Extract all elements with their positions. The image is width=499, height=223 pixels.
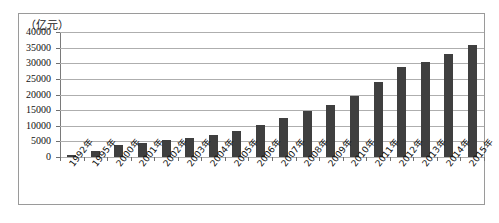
gridline bbox=[60, 48, 484, 49]
x-axis-tick-mark bbox=[296, 157, 297, 161]
x-axis-tick-mark bbox=[84, 157, 85, 161]
y-axis-tick-mark bbox=[56, 79, 60, 80]
x-axis-tick-mark bbox=[390, 157, 391, 161]
x-axis-tick-mark bbox=[131, 157, 132, 161]
y-axis-tick-mark bbox=[56, 95, 60, 96]
y-axis-tick-mark bbox=[56, 32, 60, 33]
x-axis-tick-mark bbox=[343, 157, 344, 161]
y-axis-tick-label: 25000 bbox=[0, 74, 51, 84]
chart-figure: （亿元） 40000350003000025000200001500010000… bbox=[0, 0, 499, 223]
y-axis-tick-label: 20000 bbox=[0, 90, 51, 100]
plot-area bbox=[60, 32, 484, 157]
y-axis-tick-mark bbox=[56, 48, 60, 49]
y-axis-tick-label: 30000 bbox=[0, 58, 51, 68]
gridline bbox=[60, 32, 484, 33]
y-axis-tick-mark bbox=[56, 63, 60, 64]
y-axis-tick-label: 15000 bbox=[0, 105, 51, 115]
bar bbox=[468, 45, 477, 158]
x-axis-tick-mark bbox=[366, 157, 367, 161]
x-axis-tick-mark bbox=[225, 157, 226, 161]
x-axis-tick-mark bbox=[319, 157, 320, 161]
x-axis-tick-mark bbox=[437, 157, 438, 161]
x-axis-tick-mark bbox=[272, 157, 273, 161]
x-axis-tick-mark bbox=[484, 157, 485, 161]
y-axis-tick-mark bbox=[56, 126, 60, 127]
bar bbox=[326, 105, 335, 157]
y-axis-tick-mark bbox=[56, 110, 60, 111]
x-axis-tick-mark bbox=[154, 157, 155, 161]
x-axis-tick-mark bbox=[107, 157, 108, 161]
y-axis-tick-label: 5000 bbox=[0, 136, 51, 146]
x-axis-tick-mark bbox=[178, 157, 179, 161]
y-axis-tick-mark bbox=[56, 141, 60, 142]
y-axis-tick-label: 35000 bbox=[0, 43, 51, 53]
y-axis-tick-label: 0 bbox=[0, 152, 51, 162]
y-axis-tick-label: 10000 bbox=[0, 121, 51, 131]
x-axis-tick-mark bbox=[60, 157, 61, 161]
y-axis-tick-label: 40000 bbox=[0, 27, 51, 37]
bar bbox=[350, 96, 359, 157]
